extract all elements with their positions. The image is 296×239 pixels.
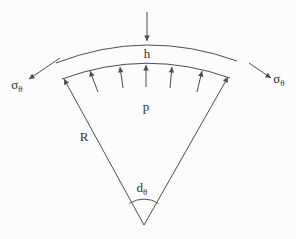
- angle-arc: [130, 199, 159, 203]
- pressure-label: p: [143, 100, 150, 113]
- angle-label: dθ: [137, 181, 148, 198]
- pressure-arrow: [90, 71, 98, 92]
- pressure-arrow: [197, 71, 202, 92]
- hoop-stress-arrow-left: [29, 58, 60, 79]
- thickness-label: h: [144, 47, 151, 60]
- hoop-stress-right-main: σ: [273, 71, 280, 86]
- hoop-stress-left-main: σ: [11, 77, 18, 92]
- hoop-stress-left-sub: θ: [18, 84, 22, 94]
- radius-label: R: [80, 130, 89, 143]
- hoop-stress-right-sub: θ: [280, 78, 284, 88]
- pressure-arrow: [120, 67, 123, 88]
- hoop-stress-label-right: σθ: [273, 72, 284, 89]
- angle-label-sub: θ: [143, 187, 147, 197]
- diagram-canvas: [0, 0, 296, 239]
- pressure-arrow: [170, 67, 172, 88]
- hoop-stress-arrow-right: [249, 63, 271, 78]
- shell-element-diagram: h p R dθ σθ σθ: [0, 0, 296, 239]
- hoop-stress-label-left: σθ: [11, 78, 22, 95]
- radius-line-left: [64, 79, 144, 225]
